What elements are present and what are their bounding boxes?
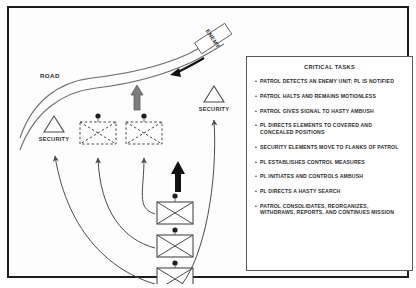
- patrol-movement-arrow: [171, 161, 185, 192]
- bullet-icon: •: [255, 108, 257, 115]
- enemy-label-box: ENEMY: [192, 20, 234, 58]
- diagram-canvas: ROAD ENEMY SECURITY: [18, 16, 246, 284]
- task-text: PL ESTABLISHES CONTROL MEASURES: [260, 159, 365, 165]
- movement-path-to-ambush-1: [98, 158, 155, 248]
- infantry-unit-3: [157, 260, 193, 284]
- bullet-icon: •: [255, 144, 257, 151]
- critical-tasks-title: CRITICAL TASKS: [252, 64, 407, 70]
- security-triangle-icon: [44, 116, 64, 132]
- infantry-unit-1: [157, 193, 193, 224]
- task-item: • PL ESTABLISHES CONTROL MEASURES: [255, 159, 405, 166]
- task-text: SECURITY ELEMENTS MOVE TO FLANKS OF PATR…: [260, 144, 399, 150]
- bullet-icon: •: [255, 188, 257, 195]
- critical-tasks-panel: CRITICAL TASKS • PATROL DETECTS AN ENEMY…: [246, 56, 413, 271]
- bullet-icon: •: [255, 78, 257, 85]
- task-text: PATROL CONSOLIDATES, REORGANIZES, WITHDR…: [260, 203, 394, 216]
- screenshot-root: ROAD ENEMY SECURITY: [0, 0, 416, 288]
- task-item: • PATROL CONSOLIDATES, REORGANIZES, WITH…: [255, 203, 405, 216]
- task-item: • PL DIRECTS A HASTY SEARCH: [255, 188, 405, 195]
- bullet-icon: •: [255, 122, 257, 129]
- dashed-ambush-position-2: [126, 113, 162, 144]
- task-text: PATROL HALTS AND REMAINS MOTIONLESS: [260, 93, 376, 99]
- bullet-icon: •: [255, 173, 257, 180]
- infantry-unit-2: [157, 227, 193, 257]
- enemy-direction-arrow: [170, 58, 204, 77]
- road-label: ROAD: [40, 72, 60, 79]
- security-element-right: SECURITY: [199, 86, 229, 112]
- task-item: • PL DIRECTS ELEMENTS TO COVERED AND CON…: [255, 122, 405, 135]
- task-text: PATROL DETECTS AN ENEMY UNIT; PL IS NOTI…: [260, 78, 394, 84]
- task-item: • PL INITIATES AND CONTROLS AMBUSH: [255, 173, 405, 180]
- bullet-icon: •: [255, 203, 257, 210]
- dashed-ambush-position-1: [80, 113, 116, 144]
- task-text: PL DIRECTS A HASTY SEARCH: [260, 188, 340, 194]
- movement-path-to-ambush-2: [142, 158, 155, 214]
- bullet-icon: •: [255, 159, 257, 166]
- security-right-label: SECURITY: [199, 106, 229, 112]
- security-triangle-icon-right: [204, 86, 224, 102]
- tactical-diagram: ROAD ENEMY SECURITY: [18, 16, 246, 284]
- road-graphic: [20, 36, 224, 150]
- task-item: • SECURITY ELEMENTS MOVE TO FLANKS OF PA…: [255, 144, 405, 151]
- movement-path-to-security-left: [55, 156, 155, 284]
- task-text: PATROL GIVES SIGNAL TO HASTY AMBUSH: [260, 108, 374, 114]
- bullet-icon: •: [255, 93, 257, 100]
- patrol-signal-arrow: [131, 85, 143, 110]
- task-text: PL INITIATES AND CONTROLS AMBUSH: [260, 173, 363, 179]
- security-element-left: SECURITY: [39, 116, 69, 142]
- outer-frame: ROAD ENEMY SECURITY: [7, 6, 409, 278]
- task-item: • PATROL GIVES SIGNAL TO HASTY AMBUSH: [255, 108, 405, 115]
- task-text: PL DIRECTS ELEMENTS TO COVERED AND CONCE…: [260, 122, 372, 135]
- security-left-label: SECURITY: [39, 136, 69, 142]
- critical-tasks-list: • PATROL DETECTS AN ENEMY UNIT; PL IS NO…: [252, 78, 407, 216]
- task-item: • PATROL HALTS AND REMAINS MOTIONLESS: [255, 93, 405, 100]
- task-item: • PATROL DETECTS AN ENEMY UNIT; PL IS NO…: [255, 78, 405, 85]
